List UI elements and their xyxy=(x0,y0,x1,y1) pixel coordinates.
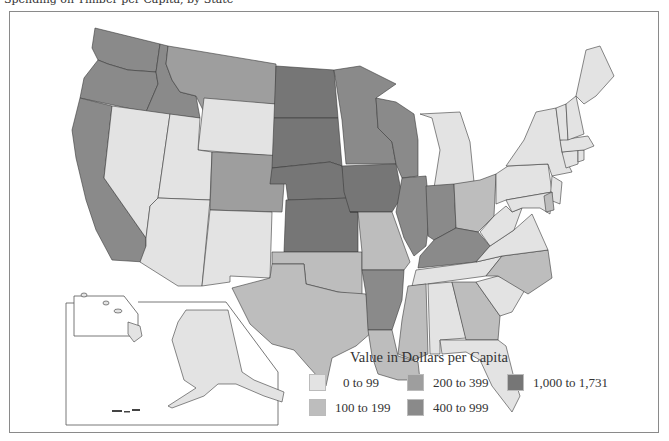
legend-item-200-399: 200 to 399 xyxy=(407,374,489,391)
state-MI[interactable] xyxy=(420,112,474,188)
state-WY[interactable] xyxy=(198,98,276,156)
legend-item-1000-1731: 1,000 to 1,731 xyxy=(507,374,608,391)
state-IA[interactable] xyxy=(342,164,402,212)
legend-item-0-99: 0 to 99 xyxy=(309,374,396,391)
legend-swatch xyxy=(407,374,424,391)
state-SD[interactable] xyxy=(272,118,342,168)
legend-item-400-999: 400 to 999 xyxy=(407,399,489,416)
legend-swatch xyxy=(507,374,524,391)
legend-swatch xyxy=(407,399,424,416)
state-ME[interactable] xyxy=(576,46,614,104)
state-HI[interactable] xyxy=(81,293,142,342)
legend-label: 400 to 999 xyxy=(433,400,489,416)
state-AZ[interactable] xyxy=(140,198,210,286)
state-RI[interactable] xyxy=(578,150,584,162)
legend-label: 100 to 199 xyxy=(335,400,391,416)
legend-item-100-199: 100 to 199 xyxy=(309,399,391,416)
state-ND[interactable] xyxy=(274,66,338,118)
state-NM[interactable] xyxy=(202,210,272,286)
legend-label: 200 to 399 xyxy=(433,375,489,391)
state-NH[interactable] xyxy=(566,96,584,140)
legend-label: 0 to 99 xyxy=(326,375,396,391)
legend-swatch xyxy=(309,399,326,416)
legend-label: 1,000 to 1,731 xyxy=(533,375,608,391)
state-DE[interactable] xyxy=(544,192,554,212)
state-KS[interactable] xyxy=(284,198,358,252)
state-AR[interactable] xyxy=(362,270,404,330)
legend-swatch xyxy=(309,374,326,391)
legend-title: Value in Dollars per Capita xyxy=(350,349,508,366)
